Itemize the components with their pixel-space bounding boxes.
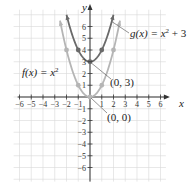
- f-label-sup: 2: [55, 66, 59, 74]
- f-label: f(x) = x2: [22, 66, 59, 79]
- y-tick-label: 6: [82, 23, 86, 32]
- y-tick-label: −5: [77, 152, 86, 161]
- f-point: [64, 48, 69, 53]
- y-tick-label: 1: [82, 81, 86, 90]
- g-label: g(x) = x2 + 3: [130, 27, 187, 40]
- x-tick-label: 4: [135, 100, 139, 109]
- x-tick-label: 6: [159, 100, 163, 109]
- y-axis-label: y: [81, 1, 87, 13]
- f-point: [99, 83, 104, 88]
- y-tick-label: 2: [82, 70, 86, 79]
- point-0-3-label: (0, 3): [110, 76, 134, 89]
- point-0-0-label: (0, 0): [107, 111, 131, 124]
- g-point: [76, 48, 81, 53]
- g-label-suffix: + 3: [169, 27, 187, 39]
- y-tick-label: 5: [82, 34, 86, 43]
- y-tick-label: 3: [82, 58, 86, 67]
- y-tick-label: −2: [77, 117, 86, 126]
- x-tick-label: −2: [62, 100, 71, 109]
- x-axis-arrow: [164, 95, 170, 100]
- y-tick-label: −1: [77, 105, 86, 114]
- x-axis-label: x: [178, 97, 184, 109]
- f-point: [111, 48, 116, 53]
- y-tick-label: 4: [82, 46, 86, 55]
- y-tick-label: −6: [77, 164, 86, 173]
- x-tick-label: −6: [15, 100, 24, 109]
- x-tick-label: −3: [50, 100, 59, 109]
- x-tick-label: −4: [39, 100, 48, 109]
- g-point: [99, 48, 104, 53]
- x-tick-label: −5: [27, 100, 36, 109]
- x-tick-label: 5: [147, 100, 151, 109]
- f-point: [76, 83, 81, 88]
- x-tick-label: 3: [123, 100, 127, 109]
- y-axis-arrow: [88, 4, 93, 10]
- f-label-text: f(x) = x: [22, 66, 55, 79]
- graph: −6−5−4−3−2−1123456−6−5−4−3−2−1123456 y x…: [0, 0, 195, 182]
- x-tick-label: 2: [112, 100, 116, 109]
- g-label-text: g(x) = x: [130, 27, 166, 40]
- y-tick-label: −3: [77, 128, 86, 137]
- y-tick-label: −4: [77, 140, 86, 149]
